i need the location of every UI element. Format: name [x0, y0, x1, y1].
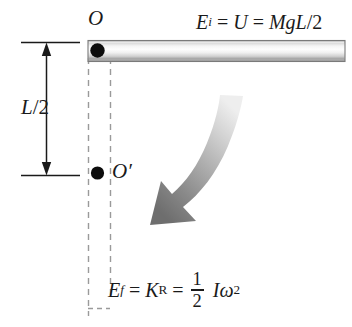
pivot-label-O: O — [88, 8, 103, 29]
equation-final-inertia-symbol: I — [213, 280, 220, 300]
pivot-label-O-prime: O′ — [112, 161, 132, 182]
equation-final-lhs-symbol: E — [108, 280, 120, 300]
equation-final-omega-symbol: ω — [219, 280, 233, 300]
rotation-direction-arrow — [150, 95, 243, 225]
physics-figure: O O′ L/2 Ei = U = MgL/2 Ef = KR = 1 2 Iω… — [0, 0, 352, 327]
dimension-arrowhead-up — [42, 43, 51, 57]
rotation-arrow-body — [150, 95, 243, 225]
pivot-dot-O-prime — [91, 166, 104, 179]
equation-initial-energy: Ei = U = MgL/2 — [196, 12, 322, 32]
equation-initial-gravity-symbol: g — [286, 12, 296, 32]
equation-initial-mass-symbol: M — [269, 12, 286, 32]
pivot-dot-O — [90, 43, 104, 57]
equation-initial-two: 2 — [312, 12, 322, 32]
equation-final-equals-2: = — [172, 280, 183, 300]
pivot-point-dots — [90, 43, 104, 179]
dimension-label-symbol: L — [21, 95, 33, 119]
fraction-numerator: 1 — [191, 270, 204, 289]
dimension-label-denominator: 2 — [39, 95, 50, 119]
equation-initial-length-symbol: L — [296, 12, 307, 32]
equation-initial-lhs-symbol: E — [196, 12, 208, 32]
equation-final-energy: Ef = KR = 1 2 Iω2 — [108, 270, 240, 310]
equation-initial-equals-1: = — [217, 12, 228, 32]
equation-final-one-half-fraction: 1 2 — [191, 270, 204, 310]
equation-initial-potential-symbol: U — [233, 12, 247, 32]
fraction-denominator: 2 — [191, 291, 204, 310]
equation-initial-equals-2: = — [253, 12, 264, 32]
dimension-label-L-over-2: L/2 — [21, 97, 49, 118]
equation-final-kinetic-symbol: K — [145, 280, 158, 300]
horizontal-rod — [88, 41, 345, 62]
equation-final-equals-1: = — [129, 280, 140, 300]
dimension-arrowhead-down — [42, 162, 51, 176]
